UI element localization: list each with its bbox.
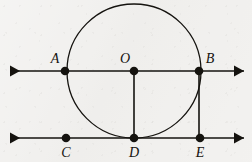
point-dot-d [130, 134, 139, 143]
point-dot-e [196, 134, 205, 143]
point-label-o: O [120, 51, 130, 66]
point-label-d: D [128, 145, 139, 160]
point-dot-b [195, 67, 204, 76]
geometry-canvas: A O B C D E [0, 0, 252, 162]
point-label-e: E [195, 145, 205, 160]
point-dot-a [61, 67, 70, 76]
point-label-a: A [50, 51, 60, 66]
point-dot-c [62, 134, 71, 143]
geometry-figure: A O B C D E [0, 0, 252, 162]
point-label-c: C [61, 145, 71, 160]
point-label-b: B [206, 51, 215, 66]
point-dot-o [130, 67, 139, 76]
